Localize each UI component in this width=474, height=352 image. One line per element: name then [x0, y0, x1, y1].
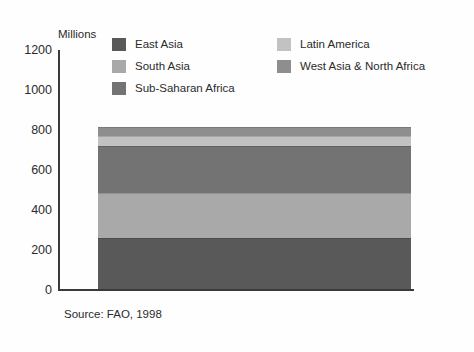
bar-segment[interactable] — [98, 146, 411, 193]
y-axis-title: Millions — [58, 28, 96, 40]
bar-segment[interactable] — [98, 193, 411, 238]
y-axis-tick-label: 600 — [31, 163, 52, 177]
stacked-bar[interactable] — [98, 127, 411, 289]
bar-segment[interactable] — [98, 238, 411, 289]
legend-swatch-latin-america — [277, 38, 291, 51]
plot-area: 020040060080010001200 — [58, 50, 414, 291]
y-axis-tick-label: 1000 — [24, 83, 52, 97]
y-axis-tick-label: 400 — [31, 203, 52, 217]
bar-segment[interactable] — [98, 136, 411, 146]
y-axis-tick-label: 800 — [31, 123, 52, 137]
x-axis-line — [58, 289, 414, 291]
y-axis-tick-label: 200 — [31, 243, 52, 257]
legend-swatch-east-asia — [112, 38, 126, 51]
bar-segment[interactable] — [98, 127, 411, 136]
y-axis-tick-label: 0 — [45, 283, 52, 297]
source-note: Source: FAO, 1998 — [64, 308, 162, 320]
y-axis-line — [58, 50, 60, 290]
legend-item-label: East Asia — [135, 38, 183, 51]
legend-item-label: Latin America — [300, 38, 370, 51]
chart-container: Millions East AsiaSouth AsiaSub-Saharan … — [0, 0, 474, 352]
y-axis-tick-label: 1200 — [24, 43, 52, 57]
